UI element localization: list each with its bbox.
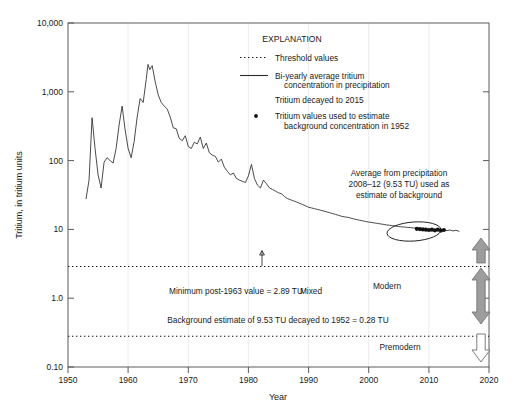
legend-label-decayed: Tritium decayed to 2015 bbox=[275, 95, 364, 105]
callout-line2: 2008–12 (9.53 TU) used as bbox=[349, 179, 450, 189]
legend-label-threshold: Threshold values bbox=[275, 53, 338, 63]
y-tick-label-1: 1.0 bbox=[51, 293, 63, 303]
y-tick-label-10: 10 bbox=[54, 224, 64, 234]
legend-title: EXPLANATION bbox=[262, 34, 322, 44]
y-tick-label-100: 100 bbox=[49, 156, 63, 166]
chart-svg: 10,000 1,000 100 10 1.0 0.10 Tritium, in… bbox=[0, 0, 520, 415]
zone-arrows bbox=[472, 238, 490, 362]
tritium-series-line bbox=[86, 64, 459, 231]
x-axis-title: Year bbox=[269, 392, 287, 402]
tritium-precipitation-figure: 10,000 1,000 100 10 1.0 0.10 Tritium, in… bbox=[0, 0, 520, 415]
x-tick-label-1970: 1970 bbox=[179, 375, 198, 385]
legend-label-points-line1: Tritium values used to estimate bbox=[275, 111, 390, 121]
y-tick-label-1000: 1,000 bbox=[42, 87, 64, 97]
zone-label-modern: Modern bbox=[373, 281, 402, 291]
x-axis-ticks bbox=[68, 367, 489, 373]
y-axis-title: Tritium, in tritium units bbox=[14, 151, 24, 239]
legend-label-series-line2: concentration in precipitation bbox=[284, 80, 390, 90]
legend-label-series-line1: Bi-yearly average tritium bbox=[275, 71, 365, 81]
up-arrow-gray-icon bbox=[472, 238, 490, 263]
minimum-value-label: Minimum post-1963 value = 2.89 TU bbox=[169, 286, 303, 296]
down-arrow-white-icon bbox=[472, 334, 490, 362]
x-tick-label-2020: 2020 bbox=[480, 375, 499, 385]
legend-explanation: EXPLANATION Threshold values Bi-yearly a… bbox=[240, 34, 409, 131]
legend-swatch-dot-icon bbox=[254, 114, 258, 118]
x-tick-label-1980: 1980 bbox=[239, 375, 258, 385]
x-tick-label-2000: 2000 bbox=[359, 375, 378, 385]
y-tick-label-10000: 10,000 bbox=[37, 18, 63, 28]
callout-line3: estimate of background bbox=[356, 190, 443, 200]
x-tick-label-1990: 1990 bbox=[299, 375, 318, 385]
x-tick-label-2010: 2010 bbox=[419, 375, 438, 385]
zone-label-mixed: Mixed bbox=[300, 286, 323, 296]
background-estimate-label: Background estimate of 9.53 TU decayed t… bbox=[167, 315, 388, 325]
background-estimate-point bbox=[442, 228, 446, 232]
zone-label-premodern: Premodern bbox=[379, 342, 420, 352]
background-average-callout: Average from precipitation 2008–12 (9.53… bbox=[349, 168, 450, 200]
x-tick-label-1960: 1960 bbox=[119, 375, 138, 385]
legend-label-points-line2: background concentration in 1952 bbox=[284, 121, 409, 131]
y-tick-label-0.10: 0.10 bbox=[46, 362, 63, 372]
double-arrow-gray-icon bbox=[472, 268, 490, 324]
x-tick-label-1950: 1950 bbox=[59, 375, 78, 385]
callout-line1: Average from precipitation bbox=[351, 168, 448, 178]
